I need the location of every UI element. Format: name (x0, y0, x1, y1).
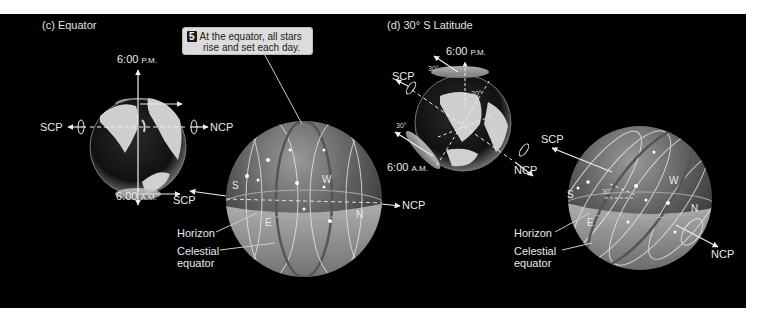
panel-d-title: (d) 30° S Latitude (387, 19, 473, 31)
time-suffix: A.M. (140, 193, 156, 202)
earth-d-bottom-time: 6:00 A.M. (387, 161, 428, 175)
callout-line-1: At the equator, all stars (200, 31, 302, 42)
panel-c-title: (c) Equator (42, 19, 96, 31)
earth-c-top-time: 6:00 P.M. (117, 53, 157, 67)
callout-leader-line (260, 46, 302, 124)
earth-d-scp-label: SCP (392, 70, 415, 82)
time-value: 6:00 (387, 161, 408, 173)
celestial-sphere-equator (190, 46, 400, 290)
sphere-c-scp-label: SCP (173, 194, 196, 206)
sphere-d-dir-n: N (691, 203, 698, 215)
sphere-d-scp-label: SCP (541, 133, 564, 145)
earth-c-bottom-time: 6:00 A.M. (116, 190, 157, 204)
sphere-d-celestial-label-1: Celestial (514, 245, 556, 257)
sphere-c-dir-n: N (356, 209, 363, 221)
time-suffix: A.M. (411, 164, 427, 173)
earth-d-angle-mid: 30° (471, 88, 482, 100)
earth-c-scp-label: SCP (40, 121, 63, 133)
diagram-graphics (0, 0, 769, 322)
callout-box: 5At the equator, all stars rise and set … (182, 27, 313, 55)
earth-30s (395, 56, 533, 176)
time-value: 6:00 (116, 190, 137, 202)
time-suffix: P.M. (141, 56, 156, 65)
earth-d-top-time: 6:00 P.M. (446, 45, 486, 59)
time-value: 6:00 (446, 45, 467, 57)
time-suffix: P.M. (470, 48, 485, 57)
sphere-d-dir-s: S (567, 189, 574, 201)
sphere-c-dir-s: S (232, 180, 239, 192)
sphere-c-celestial-label-2: equator (177, 257, 214, 269)
sphere-d-dir-w: W (669, 175, 678, 187)
earth-d-ncp-label: NCP (514, 164, 537, 176)
sphere-d-horizon-label: Horizon (514, 227, 552, 239)
callout-number: 5 (187, 31, 197, 42)
sphere-c-ncp-label: NCP (402, 199, 425, 211)
sphere-c-dir-e: E (265, 217, 272, 229)
time-value: 6:00 (117, 53, 138, 65)
sphere-d-celestial-label-2: equator (514, 257, 551, 269)
sphere-c-horizon-label: Horizon (177, 227, 215, 239)
sphere-c-celestial-label-1: Celestial (177, 245, 219, 257)
earth-d-angle-top: 30° (428, 63, 439, 75)
earth-d-angle-bottom: 30° (396, 120, 407, 132)
sphere-d-ncp-label: NCP (711, 248, 734, 260)
sphere-c-dir-w: W (322, 174, 331, 186)
earth-c-ncp-label: NCP (210, 121, 233, 133)
sphere-d-angle: 30° (602, 186, 613, 198)
earth-equator (68, 70, 208, 205)
sphere-d-dir-e: E (587, 217, 594, 229)
callout-line-2: rise and set each day. (187, 42, 308, 53)
